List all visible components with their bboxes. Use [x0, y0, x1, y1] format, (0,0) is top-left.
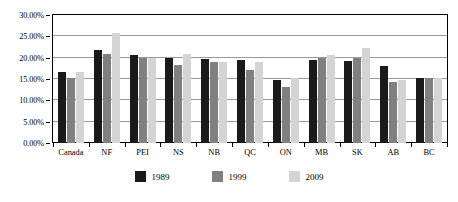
bar: [237, 60, 245, 143]
bar: [318, 58, 326, 143]
x-axis-tick-mark: [125, 143, 126, 147]
chart-legend: 198919992009: [0, 171, 458, 182]
bar: [112, 33, 120, 143]
bar: [130, 55, 138, 143]
x-axis-category-label: NF: [101, 148, 112, 157]
bar: [309, 60, 317, 143]
bar: [434, 78, 442, 143]
legend-entry: 1989: [135, 171, 170, 182]
legend-swatch-icon: [212, 171, 223, 182]
bar-group: [196, 15, 232, 143]
y-axis-tick-mark: [46, 122, 50, 123]
bar-group: [89, 15, 125, 143]
x-axis-tick-mark: [375, 143, 376, 147]
bar-chart: 0.00%5.00%10.00%15.00%20.00%25.00%30.00%…: [0, 0, 458, 202]
x-axis-tick-mark: [268, 143, 269, 147]
x-axis-category-label: BC: [423, 148, 434, 157]
bar: [210, 62, 218, 143]
y-axis-tick-label: 25.00%: [19, 32, 44, 41]
bar-group: [268, 15, 304, 143]
y-axis-tick-label: 10.00%: [19, 96, 44, 105]
x-axis-tick-mark: [447, 143, 448, 147]
x-axis-tick-mark: [160, 143, 161, 147]
y-axis-tick-mark: [46, 100, 50, 101]
x-axis-tick-mark: [89, 143, 90, 147]
bar: [139, 58, 147, 143]
bar-group: [340, 15, 376, 143]
bar: [398, 80, 406, 143]
bar-group: [160, 15, 196, 143]
x-axis-tick-mark: [196, 143, 197, 147]
x-axis-category-label: MB: [315, 148, 328, 157]
x-axis-category-label: Canada: [58, 148, 83, 157]
x-axis-tick-mark: [53, 143, 54, 147]
x-axis-tick-mark: [304, 143, 305, 147]
bar: [255, 62, 263, 143]
y-axis-tick-mark: [46, 15, 50, 16]
bar: [201, 59, 209, 143]
bar: [94, 50, 102, 143]
x-axis-tick-mark: [411, 143, 412, 147]
y-axis-tick-mark: [46, 79, 50, 80]
bar: [273, 80, 281, 143]
bar: [389, 82, 397, 143]
y-axis-tick-label: 30.00%: [19, 11, 44, 20]
bars-layer: [53, 15, 447, 143]
bar-group: [411, 15, 447, 143]
bar: [291, 78, 299, 143]
bar-group: [304, 15, 340, 143]
bar: [148, 58, 156, 143]
bar-group: [375, 15, 411, 143]
x-axis-category-label: PEI: [136, 148, 149, 157]
legend-entry: 1999: [212, 171, 247, 182]
bar: [76, 72, 84, 143]
x-axis: CanadaNFPEINSNBQCONMBSKABBC: [53, 143, 447, 163]
bar: [353, 58, 361, 143]
y-axis-tick-mark: [46, 36, 50, 37]
bar: [380, 66, 388, 143]
x-axis-category-label: SK: [352, 148, 363, 157]
x-axis-tick-mark: [340, 143, 341, 147]
bar-group: [125, 15, 161, 143]
y-axis-tick-mark: [46, 143, 50, 144]
x-axis-category-label: NS: [173, 148, 184, 157]
x-axis-category-label: QC: [244, 148, 256, 157]
legend-swatch-icon: [135, 171, 146, 182]
bar: [165, 58, 173, 143]
y-axis-tick-label: 15.00%: [19, 75, 44, 84]
x-axis-category-label: AB: [387, 148, 399, 157]
y-axis-tick-label: 20.00%: [19, 53, 44, 62]
y-axis-tick-label: 5.00%: [23, 117, 44, 126]
bar-group: [232, 15, 268, 143]
legend-label: 2009: [306, 172, 324, 182]
x-axis-category-label: NB: [208, 148, 220, 157]
legend-entry: 2009: [289, 171, 324, 182]
legend-swatch-icon: [289, 171, 300, 182]
legend-label: 1989: [152, 172, 170, 182]
bar: [103, 54, 111, 143]
bar: [282, 87, 290, 143]
x-axis-category-label: ON: [280, 148, 292, 157]
bar: [183, 54, 191, 143]
bar: [344, 61, 352, 143]
bar: [58, 72, 66, 143]
x-axis-tick-mark: [232, 143, 233, 147]
bar: [174, 65, 182, 144]
bar: [219, 62, 227, 143]
bar: [362, 48, 370, 143]
bar: [416, 78, 424, 143]
bar-group: [53, 15, 89, 143]
bar: [327, 55, 335, 143]
legend-label: 1999: [229, 172, 247, 182]
y-axis-tick-label: 0.00%: [23, 139, 44, 148]
bar: [425, 78, 433, 143]
y-axis-tick-mark: [46, 58, 50, 59]
bar: [67, 78, 75, 143]
bar: [246, 70, 254, 143]
